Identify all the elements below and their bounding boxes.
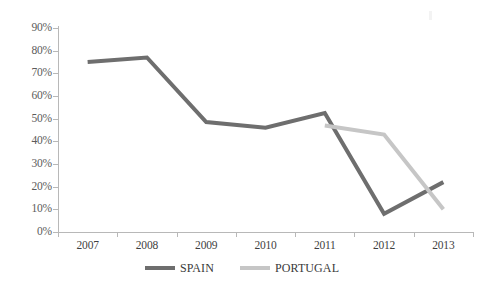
line-chart: 0%10%20%30%40%50%60%70%80%90% 2007200820… (0, 0, 484, 296)
series-line-portugal (325, 125, 444, 209)
legend-entry-portugal[interactable]: PORTUGAL (240, 262, 339, 274)
legend-label: PORTUGAL (275, 262, 339, 274)
legend-label: SPAIN (180, 262, 214, 274)
legend-swatch-icon (145, 266, 175, 270)
legend-entry-spain[interactable]: SPAIN (145, 262, 214, 274)
chart-legend: SPAINPORTUGAL (0, 262, 484, 274)
series-line-spain (88, 57, 444, 213)
legend-swatch-icon (240, 266, 270, 270)
series-layer (0, 0, 484, 296)
